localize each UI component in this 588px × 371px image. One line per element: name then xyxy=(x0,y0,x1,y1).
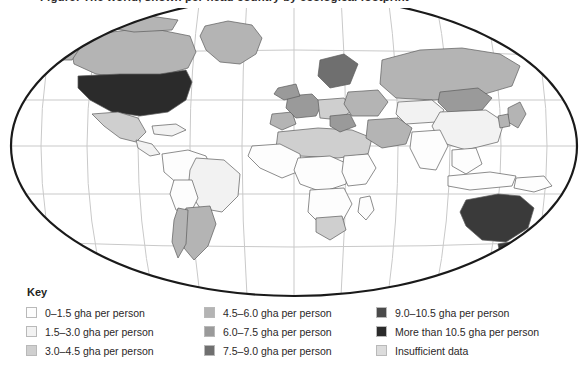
legend-label: 4.5–6.0 gha per person xyxy=(223,307,332,319)
legend-swatch-4-5-6-0 xyxy=(204,307,215,318)
map-figure: Figure: The world, shown per head countr… xyxy=(0,0,588,371)
region-canada xyxy=(70,30,196,78)
legend-label: More than 10.5 gha per person xyxy=(395,326,539,338)
legend-label: 7.5–9.0 gha per person xyxy=(223,345,332,357)
legend-swatch-3-0-4-5 xyxy=(26,345,37,356)
legend-item: 7.5–9.0 gha per person xyxy=(204,341,376,360)
legend-item: 4.5–6.0 gha per person xyxy=(204,303,376,322)
legend-item: 0–1.5 gha per person xyxy=(26,303,204,322)
legend-heading: Key xyxy=(27,286,578,298)
legend-swatch-7-5-9-0 xyxy=(204,345,215,356)
legend-swatch-0-1-5 xyxy=(26,307,37,318)
world-map-svg xyxy=(0,8,588,298)
legend-swatch-1-5-3-0 xyxy=(26,326,37,337)
legend-label: 0–1.5 gha per person xyxy=(45,307,145,319)
legend-swatch-insufficient-data xyxy=(376,345,387,356)
legend-swatch-9-0-10-5 xyxy=(376,307,387,318)
legend-item: 9.0–10.5 gha per person xyxy=(376,303,576,322)
legend-column-2: 4.5–6.0 gha per person 6.0–7.5 gha per p… xyxy=(204,303,376,360)
legend-swatch-more-than-10-5 xyxy=(376,326,387,337)
legend-swatch-6-0-7-5 xyxy=(204,326,215,337)
legend: Key 0–1.5 gha per person 1.5–3.0 gha per… xyxy=(26,286,578,371)
region-new-zealand xyxy=(542,220,562,246)
legend-item: Insufficient data xyxy=(376,341,576,360)
legend-label: Insufficient data xyxy=(395,345,468,357)
legend-label: 9.0–10.5 gha per person xyxy=(395,307,509,319)
figure-title: Figure: The world, shown per head countr… xyxy=(40,0,560,5)
legend-item: 3.0–4.5 gha per person xyxy=(26,341,204,360)
legend-label: 6.0–7.5 gha per person xyxy=(223,326,332,338)
legend-item: 1.5–3.0 gha per person xyxy=(26,322,204,341)
legend-column-1: 0–1.5 gha per person 1.5–3.0 gha per per… xyxy=(26,303,204,360)
legend-column-3: 9.0–10.5 gha per person More than 10.5 g… xyxy=(376,303,576,360)
world-map xyxy=(0,8,588,298)
legend-label: 1.5–3.0 gha per person xyxy=(45,326,154,338)
region-korea xyxy=(498,114,510,128)
legend-item: More than 10.5 gha per person xyxy=(376,322,576,341)
legend-label: 3.0–4.5 gha per person xyxy=(45,345,154,357)
legend-item: 6.0–7.5 gha per person xyxy=(204,322,376,341)
